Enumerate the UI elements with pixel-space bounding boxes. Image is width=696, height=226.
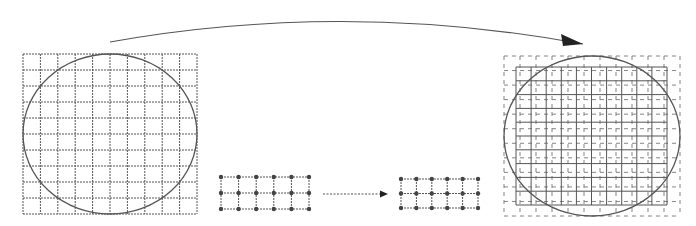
grid-node-dot — [236, 175, 240, 179]
grid-node-dot — [399, 191, 403, 195]
arrowhead-icon — [561, 34, 583, 46]
grid-node-dot — [399, 206, 403, 210]
grid-node-dot — [289, 191, 293, 195]
grid-node-dot — [254, 207, 258, 211]
arrowhead-icon — [380, 191, 388, 198]
grid-node-dot — [289, 207, 293, 211]
grid-node-dot — [272, 175, 276, 179]
grid-node-dot — [430, 177, 434, 181]
left-grid-with-circle — [23, 54, 197, 214]
grid-node-dot — [414, 206, 418, 210]
grid-node-dot — [460, 206, 464, 210]
small-dot-grid-source — [219, 175, 311, 211]
arrow-curve — [110, 21, 583, 44]
grid-node-dot — [236, 207, 240, 211]
grid-node-dot — [414, 191, 418, 195]
curved-transform-arrow — [110, 21, 583, 46]
diagram-canvas — [0, 0, 696, 226]
grid-node-dot — [272, 207, 276, 211]
grid-node-dot — [476, 177, 480, 181]
grid-node-dot — [445, 206, 449, 210]
grid-node-dot — [414, 177, 418, 181]
grid-node-dot — [254, 191, 258, 195]
grid-node-dot — [476, 191, 480, 195]
grid-node-dot — [219, 191, 223, 195]
grid-node-dot — [476, 206, 480, 210]
grid-node-dot — [445, 177, 449, 181]
grid-node-dot — [219, 207, 223, 211]
grid-node-dot — [307, 175, 311, 179]
grid-node-dot — [236, 191, 240, 195]
grid-transform-diagram — [0, 0, 696, 226]
grid-node-dot — [445, 191, 449, 195]
grid-node-dot — [399, 177, 403, 181]
grid-node-dot — [219, 175, 223, 179]
right-overlaid-grid-with-circle — [504, 56, 680, 216]
grid-node-dot — [289, 175, 293, 179]
grid-node-dot — [430, 191, 434, 195]
grid-node-dot — [430, 206, 434, 210]
grid-node-dot — [307, 207, 311, 211]
grid-node-dot — [272, 191, 276, 195]
small-dot-grid-target — [399, 177, 480, 210]
grid-node-dot — [460, 177, 464, 181]
grid-node-dot — [254, 175, 258, 179]
grid-node-dot — [307, 191, 311, 195]
mapping-arrow-dotted — [323, 191, 388, 198]
grid-node-dot — [460, 191, 464, 195]
